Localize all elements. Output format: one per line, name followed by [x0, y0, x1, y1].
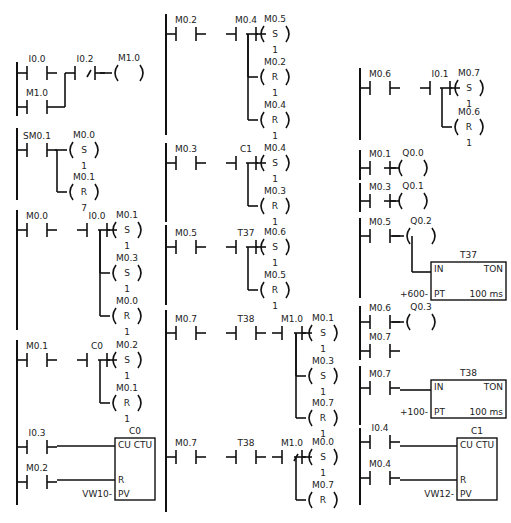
contact-t38[interactable]: T38	[226, 438, 266, 464]
contact-label: I0.3	[29, 428, 46, 438]
coil-m0-1[interactable]: M0.1R7	[57, 150, 98, 213]
contact-m1-0[interactable]: M1.0	[272, 314, 312, 340]
contact-label: M0.3	[175, 144, 197, 154]
coil-m0-4[interactable]: M0.4S1	[246, 143, 289, 184]
coil-op: S	[124, 355, 130, 365]
contact-m0-3[interactable]: M0.3	[360, 182, 400, 208]
contact-m0-1[interactable]: M0.1	[360, 149, 400, 175]
coil-q0-3[interactable]: Q0.3	[392, 302, 435, 330]
network-n7: M0.3C1M0.4S1M0.3R1	[166, 143, 289, 227]
coil-label: M0.5	[264, 14, 286, 24]
box-label: C1	[471, 426, 483, 436]
coil-op: S	[320, 371, 326, 381]
contact-m0-6[interactable]: M0.6	[360, 69, 400, 95]
coil-label: M0.0	[73, 130, 95, 140]
contact-label: M1.0	[26, 88, 48, 98]
coil-m0-3[interactable]: M0.3S1	[100, 230, 141, 294]
preset-value: VW10-	[82, 489, 112, 499]
coil-count: 1	[272, 131, 278, 141]
contact-m0-5[interactable]: M0.5	[360, 217, 400, 243]
contact-c0[interactable]: C0	[77, 341, 117, 367]
timer-t38[interactable]: T38TONINPT100 ms+100-	[400, 368, 506, 418]
coil-m0-1[interactable]: M0.1R1	[100, 360, 141, 424]
contact-m0-6[interactable]: M0.6	[360, 303, 400, 329]
contact-label: M0.2	[26, 463, 48, 473]
coil-count: 1	[124, 371, 130, 381]
contact-i0-1[interactable]: I0.1	[420, 69, 460, 95]
coil-label: Q0.2	[410, 216, 431, 226]
contact-i0-3[interactable]: I0.3	[17, 428, 57, 454]
contact-label: M0.7	[369, 332, 391, 342]
contact-i0-0[interactable]: I0.0	[17, 54, 57, 80]
contact-nc-m1-0[interactable]: M1.0	[272, 438, 312, 464]
coil-m0-5[interactable]: M0.5R1	[248, 247, 289, 311]
contact-m0-0[interactable]: M0.0	[17, 211, 57, 237]
coil-label: M0.1	[73, 172, 95, 182]
timer-t37[interactable]: T37TONINPT100 ms+600-	[400, 236, 506, 300]
network-n11: M0.6I0.1M0.7S1M0.6R1	[360, 68, 483, 148]
coil-m1-0[interactable]: M1.0	[100, 53, 143, 81]
pin-in: IN	[434, 264, 443, 274]
network-n10: M0.7T38M1.0M0.0S1M0.7R	[166, 430, 337, 512]
coil-label: M0.3	[116, 253, 138, 263]
contact-m0-2[interactable]: M0.2	[166, 15, 206, 41]
contact-sm0-1[interactable]: SM0.1	[17, 131, 57, 157]
contact-m0-7[interactable]: M0.7	[360, 369, 400, 395]
coil-m0-6[interactable]: M0.6R1	[442, 88, 483, 148]
time-base: 100 ms	[470, 289, 504, 299]
coil-q0-2[interactable]: Q0.2	[392, 216, 435, 244]
network-n14: M0.5Q0.2T37TONINPT100 ms+600-	[360, 216, 506, 300]
contact-t38[interactable]: T38	[226, 314, 266, 340]
network-n3: M0.0I0.0M0.1S1M0.3S1M0.0R1	[17, 210, 141, 337]
coil-count: 1	[81, 161, 87, 171]
contact-m1-0[interactable]: M1.0	[17, 73, 65, 114]
counter-c0[interactable]: C0CTUCURPVVW10-	[57, 426, 155, 500]
box-type: TON	[483, 382, 503, 392]
coil-m0-7[interactable]: M0.7R	[296, 457, 337, 508]
network-n9: M0.7T38M1.0M0.1S1M0.3S1M0.7R1	[166, 310, 337, 439]
contact-m0-4[interactable]: M0.4	[360, 459, 400, 485]
contact-label: M0.1	[26, 341, 48, 351]
coil-m0-3[interactable]: M0.3R1	[248, 163, 289, 227]
coil-label: M0.7	[458, 68, 480, 78]
preset-time: +600-	[400, 289, 428, 299]
coil-m0-0[interactable]: M0.0S1	[55, 130, 98, 171]
coil-m0-7[interactable]: M0.7R1	[296, 333, 337, 439]
contact-label: T38	[237, 314, 255, 324]
contact-m0-7[interactable]: M0.7	[166, 438, 206, 464]
contact-label: SM0.1	[23, 131, 51, 141]
coil-count: 1	[124, 327, 130, 337]
coil-m0-3[interactable]: M0.3S1	[296, 333, 337, 397]
coil-op: R	[466, 122, 472, 132]
contact-m0-7[interactable]: M0.7	[360, 332, 400, 358]
coil-label: M0.5	[264, 270, 286, 280]
coil-label: M1.0	[118, 53, 140, 63]
contact-m0-5[interactable]: M0.5	[166, 228, 206, 254]
coil-m0-2[interactable]: M0.2R1	[248, 34, 289, 98]
coil-op: R	[272, 72, 278, 82]
coil-op: R	[272, 201, 278, 211]
contact-c1[interactable]: C1	[226, 144, 266, 170]
contact-label: M0.0	[26, 211, 48, 221]
contact-i0-0[interactable]: I0.0	[77, 211, 117, 237]
pin-r: R	[118, 475, 124, 485]
contact-nc-i0-2[interactable]: I0.2	[65, 54, 105, 80]
coil-m0-2[interactable]: M0.2S1	[98, 340, 141, 381]
coil-count: 1	[124, 414, 130, 424]
coil-op: S	[320, 452, 326, 462]
contact-m0-4[interactable]: M0.4	[226, 15, 266, 41]
preset-time: +100-	[400, 407, 428, 417]
coil-count: 1	[124, 284, 130, 294]
coil-m0-0[interactable]: M0.0R1	[100, 230, 141, 337]
network-n6: M0.2M0.4M0.5S1M0.2R1M0.4R1	[166, 14, 289, 141]
coil-op: S	[466, 83, 472, 93]
contact-m0-2[interactable]: M0.2	[17, 463, 57, 489]
pin-pt: PT	[434, 407, 445, 417]
contact-t37[interactable]: T37	[226, 228, 266, 254]
contact-i0-4[interactable]: I0.4	[360, 423, 400, 449]
contact-m0-7[interactable]: M0.7	[166, 314, 206, 340]
contact-m0-3[interactable]: M0.3	[166, 144, 206, 170]
counter-c1[interactable]: C1CTUCURPVVW12-	[400, 426, 497, 500]
coil-m0-4[interactable]: M0.4R1	[248, 34, 289, 141]
contact-m0-1[interactable]: M0.1	[17, 341, 57, 367]
